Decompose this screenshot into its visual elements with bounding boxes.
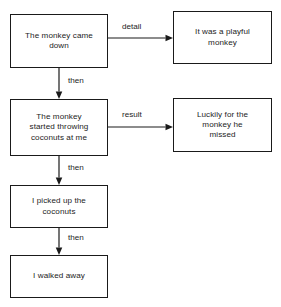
edge-result-edge	[108, 124, 173, 131]
node-label: The monkey came down	[25, 31, 93, 51]
arrowhead-icon	[56, 248, 63, 256]
node-label: The monkey started throwing coconuts at …	[30, 112, 89, 143]
edge-then-edge-2	[56, 156, 63, 185]
node-playful[interactable]: It was a playful monkey	[173, 11, 272, 64]
edge-then-edge-1	[56, 68, 63, 99]
edge-label-detail-edge: detail	[122, 22, 141, 31]
edge-label-then-edge-1: then	[68, 76, 84, 85]
node-came-down[interactable]: The monkey came down	[10, 14, 108, 68]
edge-label-then-edge-2: then	[68, 163, 84, 172]
node-label: Luckily for the monkey he missed	[197, 110, 248, 141]
node-throwing-coconuts[interactable]: The monkey started throwing coconuts at …	[10, 99, 108, 156]
edge-label-then-edge-3: then	[68, 233, 84, 242]
node-label: I picked up the coconuts	[32, 196, 86, 216]
edge-detail-edge	[108, 35, 173, 42]
edge-then-edge-3	[56, 228, 63, 255]
node-label: I walked away	[33, 271, 85, 281]
node-luckily-missed[interactable]: Luckily for the monkey he missed	[173, 98, 272, 152]
arrowhead-icon	[166, 124, 174, 131]
flowchart-diagram: The monkey came downIt was a playful mon…	[0, 0, 281, 307]
arrowhead-icon	[56, 92, 63, 100]
node-picked-up[interactable]: I picked up the coconuts	[10, 185, 108, 228]
node-label: It was a playful monkey	[195, 27, 250, 47]
arrowhead-icon	[166, 35, 174, 42]
edge-label-result-edge: result	[122, 110, 142, 119]
node-walked-away[interactable]: I walked away	[10, 255, 108, 298]
arrowhead-icon	[56, 178, 63, 186]
